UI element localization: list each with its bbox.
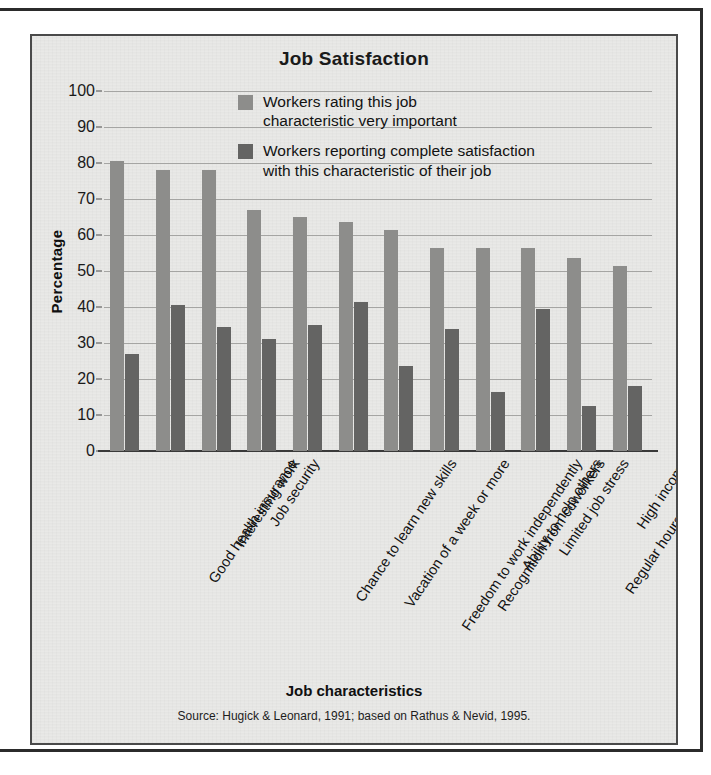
chart-panel: Job Satisfaction Percentage 010203040506… [30, 34, 678, 745]
bar-series-2 [536, 309, 550, 451]
legend-label-line2: with this characteristic of their job [263, 161, 535, 180]
bar-series-2 [628, 386, 642, 451]
outer-page-frame: Job Satisfaction Percentage 010203040506… [0, 8, 703, 752]
legend-swatch-icon [238, 95, 253, 110]
y-tick-label: 100 [68, 82, 95, 100]
y-tick-label: 30 [77, 334, 95, 352]
legend-label-line2: characteristic very important [263, 111, 457, 130]
bar-series-1 [202, 170, 216, 451]
bar-group [156, 91, 185, 451]
bar-series-2 [582, 406, 596, 451]
bar-group [110, 91, 139, 451]
legend-label: Workers rating this jobcharacteristic ve… [263, 92, 457, 130]
chart-legend: Workers rating this jobcharacteristic ve… [238, 92, 638, 191]
bar-series-1 [110, 161, 124, 451]
bar-series-1 [521, 248, 535, 451]
y-tick-mark [96, 127, 102, 128]
y-axis-title-text: Percentage [49, 229, 66, 313]
y-tick-mark [96, 235, 102, 236]
y-tick-mark [96, 415, 102, 416]
x-category-label: Chance to learn new skills [352, 456, 460, 605]
y-tick-mark [96, 379, 102, 380]
legend-item: Workers reporting complete satisfactionw… [238, 141, 638, 179]
bar-series-1 [339, 222, 353, 451]
y-tick-label: 50 [77, 262, 95, 280]
bar-series-2 [399, 366, 413, 451]
y-tick-label: 0 [86, 442, 95, 460]
y-tick-label: 70 [77, 190, 95, 208]
y-tick-mark [96, 163, 102, 164]
bar-group [202, 91, 231, 451]
bar-series-2 [171, 305, 185, 451]
legend-label-line1: Workers rating this job [263, 92, 457, 111]
bar-series-2 [491, 392, 505, 451]
y-tick-mark [96, 343, 102, 344]
bar-series-1 [156, 170, 170, 451]
chart-title: Job Satisfaction [32, 48, 676, 70]
legend-item: Workers rating this jobcharacteristic ve… [238, 92, 638, 130]
bar-series-1 [293, 217, 307, 451]
y-tick-mark [96, 271, 102, 272]
y-tick-mark [96, 91, 102, 92]
bar-series-2 [125, 354, 139, 451]
bar-series-2 [354, 302, 368, 451]
source-note: Source: Hugick & Leonard, 1991; based on… [32, 709, 676, 723]
bar-series-2 [445, 329, 459, 451]
y-axis-title: Percentage [46, 91, 68, 451]
bar-series-1 [384, 230, 398, 451]
legend-swatch-icon [238, 144, 253, 159]
bar-series-1 [247, 210, 261, 451]
bar-series-1 [430, 248, 444, 451]
legend-label: Workers reporting complete satisfactionw… [263, 141, 535, 179]
bar-series-1 [567, 258, 581, 451]
legend-label-line1: Workers reporting complete satisfaction [263, 141, 535, 160]
y-tick-label: 20 [77, 370, 95, 388]
y-tick-label: 40 [77, 298, 95, 316]
bar-series-2 [308, 325, 322, 451]
y-tick-label: 90 [77, 118, 95, 136]
bar-series-2 [262, 339, 276, 451]
y-tick-mark [96, 199, 102, 200]
y-tick-label: 80 [77, 154, 95, 172]
y-tick-mark [96, 307, 102, 308]
x-axis-title: Job characteristics [32, 682, 676, 699]
y-tick-label: 10 [77, 406, 95, 424]
y-tick-label: 60 [77, 226, 95, 244]
bar-series-1 [613, 266, 627, 451]
bar-series-1 [476, 248, 490, 451]
bar-series-2 [217, 327, 231, 451]
